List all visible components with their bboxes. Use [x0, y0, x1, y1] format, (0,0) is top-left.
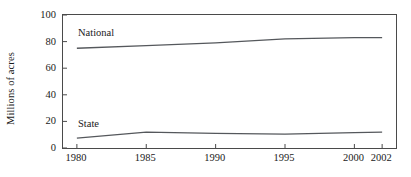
x-tick-1995: 1995 — [264, 152, 304, 163]
x-tick-2002: 2002 — [361, 152, 401, 163]
line-national — [77, 38, 382, 49]
x-tick-1980: 1980 — [56, 152, 96, 163]
chart-container: Millions of acres 020406080100 198019851… — [0, 0, 411, 177]
x-tick-1985: 1985 — [125, 152, 165, 163]
x-tick-1990: 1990 — [195, 152, 235, 163]
series-label-national: National — [78, 27, 114, 38]
series-label-state: State — [78, 118, 99, 129]
line-state — [77, 132, 382, 138]
